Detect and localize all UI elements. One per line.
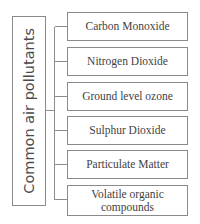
root-category-label: Common air pollutants (22, 28, 37, 194)
pollutant-box-carbon-monoxide: Carbon Monoxide (67, 12, 188, 41)
pollutant-box-sulphur-dioxide: Sulphur Dioxide (67, 116, 188, 145)
pollutant-label: Carbon Monoxide (83, 20, 171, 33)
pollutant-box-ground-level-ozone: Ground level ozone (67, 82, 188, 111)
root-category-box: Common air pollutants (12, 16, 46, 206)
pollutant-label: Nitrogen Dioxide (85, 55, 170, 68)
pollutant-box-nitrogen-dioxide: Nitrogen Dioxide (67, 47, 188, 76)
pollutant-label: Ground level ozone (80, 90, 175, 103)
pollutant-box-volatile-organic-compounds: Volatile organic compounds (67, 185, 188, 216)
air-pollutants-diagram: Common air pollutants Carbon Monoxide Ni… (0, 0, 200, 224)
pollutant-label: Particulate Matter (84, 158, 171, 171)
pollutant-box-particulate-matter: Particulate Matter (67, 150, 188, 179)
pollutant-label: Sulphur Dioxide (87, 124, 167, 137)
pollutant-label: Volatile organic compounds (89, 188, 166, 214)
